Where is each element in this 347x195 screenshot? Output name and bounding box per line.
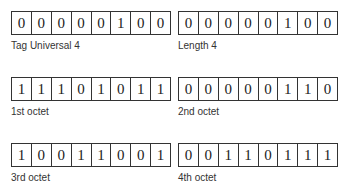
bit: 1 [131, 78, 151, 100]
bit: 1 [12, 144, 32, 166]
bit: 0 [239, 12, 259, 34]
bit: 0 [199, 12, 219, 34]
octet-3-caption: 3rd octet [11, 172, 171, 183]
bit: 0 [92, 12, 112, 34]
bit: 1 [318, 144, 337, 166]
bit: 0 [32, 12, 52, 34]
tag-octet: 0 0 0 0 0 1 0 0 [11, 11, 171, 35]
bit: 1 [111, 12, 131, 34]
bit: 0 [259, 78, 279, 100]
bit: 0 [179, 78, 199, 100]
bit: 1 [151, 144, 170, 166]
bit: 0 [179, 144, 199, 166]
octet-4: 0 0 1 1 0 1 1 1 [178, 143, 338, 167]
bit: 0 [111, 78, 131, 100]
bit: 0 [239, 78, 259, 100]
octet-2: 0 0 0 0 0 1 1 0 [178, 77, 338, 101]
bit: 1 [72, 144, 92, 166]
octet-4-block: 0 0 1 1 0 1 1 1 4th octet [178, 143, 338, 183]
bit: 1 [151, 78, 170, 100]
bit: 1 [278, 78, 298, 100]
bit: 0 [12, 12, 32, 34]
octet-1: 1 1 1 0 1 0 1 1 [11, 77, 171, 101]
bit: 1 [92, 78, 112, 100]
bit: 0 [199, 144, 219, 166]
octet-2-block: 0 0 0 0 0 1 1 0 2nd octet [178, 77, 338, 117]
bit: 0 [219, 78, 239, 100]
length-caption: Length 4 [178, 40, 338, 51]
octet-1-caption: 1st octet [11, 106, 171, 117]
bit: 1 [12, 78, 32, 100]
bit: 1 [298, 144, 318, 166]
bit: 0 [131, 144, 151, 166]
length-octet: 0 0 0 0 0 1 0 0 [178, 11, 338, 35]
bit: 0 [298, 12, 318, 34]
bit: 0 [259, 12, 279, 34]
bit: 1 [219, 144, 239, 166]
octet-3: 1 0 0 1 1 0 0 1 [11, 143, 171, 167]
bit: 0 [32, 144, 52, 166]
bit: 1 [298, 78, 318, 100]
bit: 1 [32, 78, 52, 100]
bit: 1 [239, 144, 259, 166]
bit: 0 [318, 78, 337, 100]
bit: 1 [278, 12, 298, 34]
bit: 0 [151, 12, 170, 34]
bit: 0 [52, 144, 72, 166]
octet-2-caption: 2nd octet [178, 106, 338, 117]
bit: 0 [131, 12, 151, 34]
bit: 0 [219, 12, 239, 34]
bit: 0 [318, 12, 337, 34]
tag-caption: Tag Universal 4 [11, 40, 171, 51]
octet-3-block: 1 0 0 1 1 0 0 1 3rd octet [11, 143, 171, 183]
bit: 1 [278, 144, 298, 166]
length-block: 0 0 0 0 0 1 0 0 Length 4 [178, 11, 338, 51]
bit: 1 [92, 144, 112, 166]
bit: 0 [111, 144, 131, 166]
bit: 0 [199, 78, 219, 100]
bit: 0 [179, 12, 199, 34]
bit: 0 [259, 144, 279, 166]
bit: 0 [52, 12, 72, 34]
bit: 1 [52, 78, 72, 100]
bit: 0 [72, 12, 92, 34]
octet-4-caption: 4th octet [178, 172, 338, 183]
tag-block: 0 0 0 0 0 1 0 0 Tag Universal 4 [11, 11, 171, 51]
octet-1-block: 1 1 1 0 1 0 1 1 1st octet [11, 77, 171, 117]
bit: 0 [72, 78, 92, 100]
